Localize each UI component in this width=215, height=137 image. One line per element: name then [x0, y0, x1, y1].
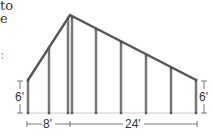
left-width-label: 8'	[43, 117, 52, 131]
right-height-label: 6'	[199, 90, 208, 104]
left-height-label: 6'	[15, 90, 24, 104]
greenhouse-frame-diagram: 6' 6' 8' 24'	[0, 0, 215, 137]
width-dimension-line	[27, 121, 197, 127]
frame	[27, 15, 197, 113]
stud-highlights	[28, 19, 196, 112]
right-width-label: 24'	[125, 117, 141, 131]
